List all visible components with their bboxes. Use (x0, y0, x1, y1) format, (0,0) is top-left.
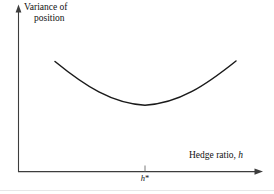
variance-vs-hedge-ratio-figure: Variance of position Hedge ratio, h h* (0, 0, 274, 194)
x-axis-label-symbol: h (238, 150, 243, 160)
x-axis-arrowhead-icon (255, 168, 264, 174)
y-axis-label-line2: position (24, 13, 68, 24)
x-axis-label-text: Hedge ratio, (189, 150, 236, 160)
y-axis-label: Variance of position (24, 2, 68, 23)
y-axis (16, 5, 22, 173)
x-axis-label: Hedge ratio, h (189, 150, 243, 161)
variance-curve (55, 61, 236, 105)
plot-canvas (0, 0, 274, 194)
x-tick-label-h-star: h* (135, 173, 155, 183)
y-axis-arrowhead-icon (16, 5, 22, 13)
y-axis-label-line1: Variance of (24, 2, 68, 12)
star-symbol: * (145, 173, 149, 183)
bottom-divider (0, 190, 274, 191)
